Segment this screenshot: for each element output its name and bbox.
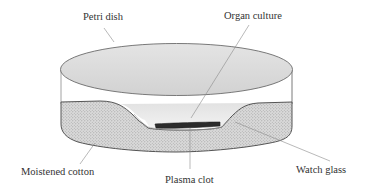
petri-dish-lid — [61, 44, 293, 96]
label-moistened-cotton: Moistened cotton — [21, 167, 94, 178]
leader-petri-dish — [104, 28, 114, 42]
label-watch-glass: Watch glass — [296, 165, 346, 176]
label-plasma-clot: Plasma clot — [165, 175, 214, 186]
leader-moistened-cotton — [80, 143, 95, 164]
label-organ-culture: Organ culture — [224, 11, 282, 22]
label-petri-dish: Petri dish — [83, 12, 123, 23]
